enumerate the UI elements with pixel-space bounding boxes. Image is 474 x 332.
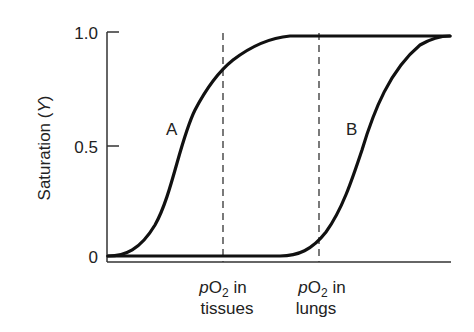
y-axis (107, 32, 119, 262)
y-tick-0-5: 0.5 (74, 138, 98, 157)
svg-text:lungs: lungs (296, 299, 337, 318)
svg-text:pO2 in: pO2 in (198, 278, 246, 300)
y-tick-0: 0 (89, 248, 98, 267)
oxygen-saturation-chart: 1.0 0.5 0 Saturation (Y) A B pO2 in tiss… (0, 0, 474, 332)
curve-b (108, 36, 450, 256)
lungs-label: pO2 in lungs (296, 278, 346, 318)
curve-b-label: B (346, 120, 357, 139)
y-axis-title: Saturation (Y) (35, 96, 54, 201)
curve-a-label: A (166, 120, 178, 139)
svg-text:tissues: tissues (201, 299, 254, 318)
svg-text:pO2 in: pO2 in (297, 278, 345, 300)
y-tick-1: 1.0 (74, 24, 98, 43)
tissues-label: pO2 in tissues (198, 278, 253, 318)
